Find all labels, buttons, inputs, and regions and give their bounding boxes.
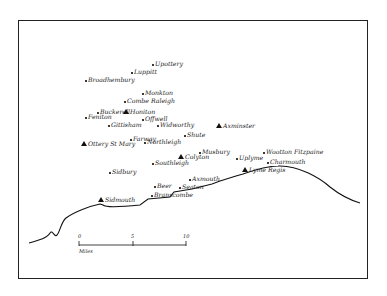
village-marker-icon (152, 64, 154, 66)
place-label: Feniton (88, 114, 112, 120)
scale-tick-0: 0 (78, 233, 81, 239)
village-marker-icon (142, 119, 144, 121)
village-marker-icon (179, 187, 181, 189)
village-marker-icon (108, 125, 110, 127)
place-label: Ottery St Mary (88, 141, 135, 147)
village-marker-icon (85, 80, 87, 82)
village-marker-icon (144, 142, 146, 144)
place-label: Sidmouth (105, 197, 135, 203)
place-label: Axminster (223, 123, 255, 129)
place-label: Luppitt (134, 69, 157, 75)
village-marker-icon (189, 179, 191, 181)
coastline (0, 0, 387, 296)
village-marker-icon (236, 158, 238, 160)
place-label: Combe Raleigh (127, 98, 175, 104)
place-label: Broadhembury (88, 77, 135, 83)
town-marker-icon (123, 109, 129, 114)
place-label: Uplyme (239, 155, 263, 161)
village-marker-icon (152, 163, 154, 165)
town-marker-icon (98, 197, 104, 202)
town-marker-icon (242, 167, 248, 172)
place-label: Axmouth (192, 176, 220, 182)
place-label: Wootton Fitzpaine (266, 149, 323, 155)
village-marker-icon (157, 125, 159, 127)
place-label: Monkton (145, 90, 173, 96)
town-marker-icon (216, 123, 222, 128)
place-label: Lyme Regis (249, 167, 285, 173)
place-label: Southleigh (155, 160, 189, 166)
village-marker-icon (85, 117, 87, 119)
place-label: Charmouth (270, 159, 305, 165)
village-marker-icon (109, 172, 111, 174)
town-marker-icon (81, 141, 87, 146)
place-label: Sidbury (112, 169, 137, 175)
scale-tick-10: 10 (183, 233, 189, 239)
place-label: Northleigh (147, 139, 181, 145)
village-marker-icon (184, 135, 186, 137)
scale-unit: Miles (79, 248, 93, 254)
village-marker-icon (131, 72, 133, 74)
scale-tick-5: 5 (131, 233, 134, 239)
village-marker-icon (124, 101, 126, 103)
village-marker-icon (142, 93, 144, 95)
village-marker-icon (263, 152, 265, 154)
place-label: Widworthy (160, 122, 194, 128)
place-label: Branscombe (154, 192, 193, 198)
place-label: Seaton (182, 184, 204, 190)
place-label: Shute (187, 132, 205, 138)
place-label: Gittisham (111, 122, 142, 128)
scale-bar (79, 241, 186, 246)
place-label: Beer (157, 183, 172, 189)
village-marker-icon (154, 186, 156, 188)
place-label: Upottery (155, 61, 183, 67)
village-marker-icon (151, 195, 153, 197)
village-marker-icon (267, 162, 269, 164)
